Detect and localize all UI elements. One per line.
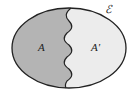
universe-label: ℰ [105, 3, 113, 15]
set-a-complement-label: A' [90, 41, 101, 53]
venn-diagram: A A' ℰ [0, 0, 132, 95]
set-a-label: A [37, 41, 45, 53]
